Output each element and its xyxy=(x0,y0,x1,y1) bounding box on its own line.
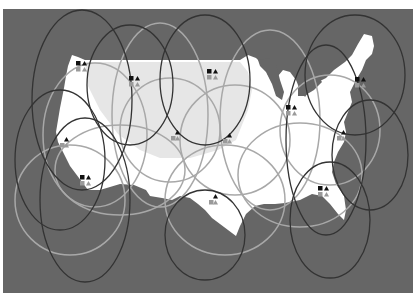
square-marker-icon xyxy=(355,77,360,82)
square-marker-icon xyxy=(318,192,323,197)
square-marker-icon xyxy=(355,83,360,88)
square-marker-icon xyxy=(80,181,85,186)
square-marker-icon xyxy=(76,61,81,66)
square-marker-icon xyxy=(129,82,134,87)
square-marker-icon xyxy=(223,139,228,144)
square-marker-icon xyxy=(286,111,291,116)
square-marker-icon xyxy=(80,175,85,180)
square-marker-icon xyxy=(207,69,212,74)
square-marker-icon xyxy=(286,105,291,110)
map-svg xyxy=(0,0,416,303)
square-marker-icon xyxy=(129,76,134,81)
square-marker-icon xyxy=(171,136,176,141)
square-marker-icon xyxy=(337,136,342,141)
us-coverage-map xyxy=(0,0,416,303)
square-marker-icon xyxy=(207,75,212,80)
square-marker-icon xyxy=(318,186,323,191)
square-marker-icon xyxy=(76,67,81,72)
square-marker-icon xyxy=(60,143,65,148)
square-marker-icon xyxy=(209,200,214,205)
